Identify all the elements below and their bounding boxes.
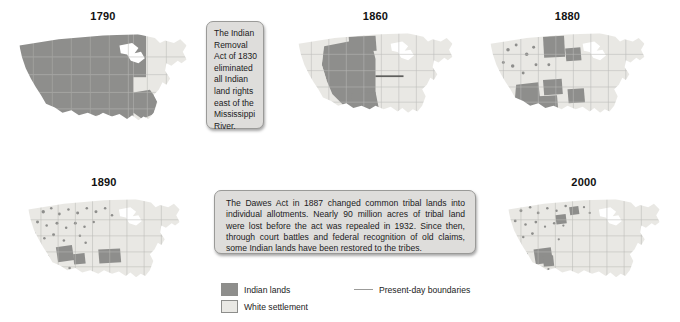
legend-label-present-day-boundaries: Present-day boundaries xyxy=(379,285,470,295)
map-panel-1890: 1890 xyxy=(18,176,190,299)
legend-item-indian-lands: Indian lands xyxy=(221,282,308,297)
map-panel-2000: 2000 xyxy=(498,176,670,299)
map-figure-1790 xyxy=(8,24,198,144)
legend-item-white-settlement: White settlement xyxy=(221,299,308,314)
white-settlement-swatch-icon xyxy=(221,300,238,313)
map-figure-1880 xyxy=(480,24,655,135)
legend-swatch-column: Indian lands White settlement xyxy=(221,282,308,316)
callout-indian-removal-act-text: The Indian Removal Act of 1830 eliminate… xyxy=(214,28,257,132)
map-year-label: 2000 xyxy=(498,176,670,188)
legend-label-white-settlement: White settlement xyxy=(244,302,308,312)
callout-dawes-act: The Dawes Act in 1887 changed common tri… xyxy=(214,190,476,254)
boundary-line-icon xyxy=(354,289,373,290)
map-year-label: 1890 xyxy=(18,176,190,188)
map-figure-1860 xyxy=(288,24,463,135)
callout-dawes-act-text: The Dawes Act in 1887 changed common tri… xyxy=(226,198,465,254)
indian-lands-swatch-icon xyxy=(221,283,238,296)
map-panel-1880: 1880 xyxy=(480,10,655,135)
callout-indian-removal-act: The Indian Removal Act of 1830 eliminate… xyxy=(206,21,264,129)
map-panel-1860: 1860 xyxy=(288,10,463,135)
legend-item-present-day-boundaries: Present-day boundaries xyxy=(354,282,470,297)
map-year-label: 1860 xyxy=(288,10,463,22)
legend: Indian lands White settlement Present-da… xyxy=(221,282,511,316)
map-figure-2000 xyxy=(498,190,670,299)
legend-label-indian-lands: Indian lands xyxy=(244,285,290,295)
map-year-label: 1880 xyxy=(480,10,655,22)
map-year-label: 1790 xyxy=(8,10,198,22)
map-figure-1890 xyxy=(18,190,190,299)
indian-lands-infographic: 1790 xyxy=(0,0,680,322)
map-panel-1790: 1790 xyxy=(8,10,198,144)
